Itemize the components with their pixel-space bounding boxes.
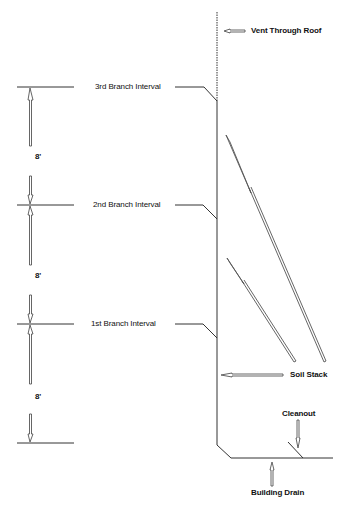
building-drain-pipe (217, 445, 333, 458)
branch-1-label: 1st Branch Interval (91, 319, 156, 328)
leader-branch-1 (175, 324, 217, 338)
cleanout-arrow-down-icon (296, 420, 300, 448)
dim-arrow-down-icon (28, 176, 33, 204)
leader-branch-3 (175, 87, 217, 101)
dim-arrow-down-icon (28, 295, 33, 323)
dim-arrow-up-icon (28, 325, 33, 384)
cleanout-label: Cleanout (282, 409, 315, 418)
dimension-label: 8' (35, 392, 41, 401)
cleanout-fitting (288, 442, 303, 458)
branch-3-label: 3rd Branch Interval (95, 82, 161, 91)
dimension-label: 8' (35, 271, 41, 280)
dim-arrow-up-icon (28, 88, 33, 146)
leader-branch-2 (175, 205, 217, 219)
vent-arrow-left-icon (224, 29, 245, 33)
vent-label: Vent Through Roof (251, 26, 321, 35)
building-drain-arrow-up-icon (270, 462, 274, 486)
branch-2-label: 2nd Branch Interval (93, 200, 160, 209)
dim-arrow-up-icon (28, 206, 33, 265)
diagonal-pointer-long (226, 135, 326, 362)
building-drain-label: Building Drain (251, 488, 304, 497)
dimension-label: 8' (35, 152, 41, 161)
soil-stack-arrow-left-icon (221, 373, 283, 377)
soil-stack-label: Soil Stack (290, 370, 327, 379)
dim-arrow-down-icon (28, 414, 33, 442)
plumbing-diagram (0, 0, 347, 507)
